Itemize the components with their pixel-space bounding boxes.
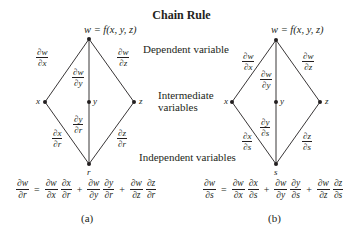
independent-variables-label: Independent variables [139, 151, 236, 163]
node-label-y-a: y [93, 96, 97, 106]
dependent-variable-label: Dependent variable [143, 43, 229, 55]
edge-label-dx-dr-a: ∂x∂r [52, 128, 62, 149]
chain-rule-equation-a: ∂w∂r = ∂w∂x ∂x∂r + ∂w∂y ∂y∂r + ∂w∂z ∂z∂r [16, 178, 156, 201]
node-label-y-b: y [280, 96, 284, 106]
node-w-a [87, 37, 91, 41]
node-label-r-a: r [87, 167, 91, 177]
chain-rule-equation-b: ∂w∂s = ∂w∂x ∂x∂s + ∂w∂y ∂y∂s + ∂w∂z ∂z∂s [203, 178, 343, 201]
node-z-a [132, 100, 136, 104]
node-s-b [274, 162, 278, 166]
node-r-a [87, 162, 91, 166]
intermediate-variables-label-line2: variables [158, 101, 198, 113]
node-label-z-b: z [325, 96, 329, 106]
function-label-a: w = f(x, y, z) [84, 24, 137, 35]
edge-label-dw-dz-a: ∂w∂z [117, 47, 129, 68]
edge-label-dy-dr-a: ∂y∂r [73, 114, 83, 135]
edge-label-dy-ds-b: ∂y∂s [260, 117, 270, 138]
node-y-b [274, 100, 278, 104]
caption-a: (a) [81, 212, 93, 224]
node-x-b [230, 100, 234, 104]
node-label-s-b: s [274, 167, 278, 177]
node-z-b [318, 100, 322, 104]
node-y-a [87, 100, 91, 104]
node-label-z-a: z [139, 96, 143, 106]
edge-label-dz-dr-a: ∂z∂r [117, 128, 127, 149]
node-label-x-a: x [36, 96, 40, 106]
intermediate-variables-label-line1: Intermediate [158, 89, 214, 101]
caption-b: (b) [268, 212, 281, 224]
edge-label-dw-dx-a: ∂w∂x [36, 47, 48, 68]
edge-label-dw-dy-a: ∂w∂y [72, 67, 84, 88]
edge-label-dx-ds-b: ∂x∂s [242, 131, 252, 152]
function-label-b: w = f(x, y, z) [271, 24, 324, 35]
edge-label-dw-dz-b: ∂w∂z [302, 51, 314, 72]
node-w-b [274, 38, 278, 42]
node-x-a [43, 100, 47, 104]
edge-label-dz-ds-b: ∂z∂s [302, 131, 312, 152]
node-label-x-b: x [224, 96, 228, 106]
edge-label-dw-dx-b: ∂w∂x [242, 51, 254, 72]
edge-label-dw-dy-b: ∂w∂y [260, 69, 272, 90]
